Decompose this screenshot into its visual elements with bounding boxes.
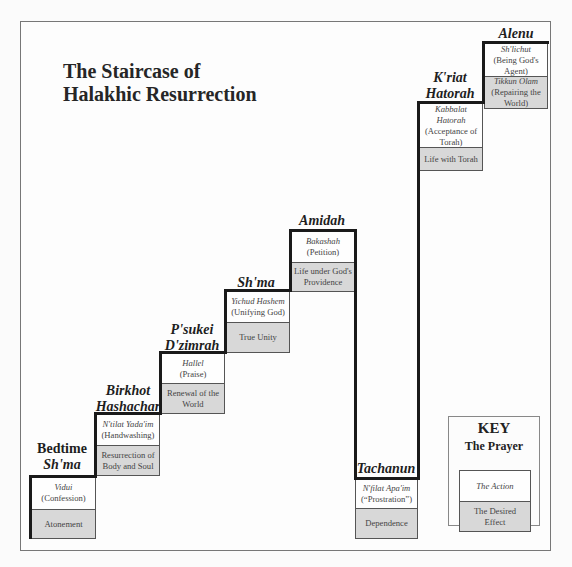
effect-text: Atonement [44,519,82,530]
action-name: Yichud Hashem [231,296,285,307]
prayer-name: Sh'ma [237,275,274,290]
step-kriat-hatorah-effect: Life with Torah [419,147,483,171]
key-prayer-label: The Prayer [449,439,539,453]
step-alenu-action: Sh'lichut(Being God's Agent) [484,43,548,76]
step-amidah-heading: Amidah [288,213,356,229]
step-kriat-hatorah-heading: K'riat Hatorah [416,70,484,102]
action-name: N'filat Apa'im [361,483,412,494]
diagram-title: The Staircase of Halakhic Resurrection [63,60,257,106]
prayer-name: P'sukei [171,322,214,337]
action-gloss: (Petition) [306,247,340,258]
step-bedtime-shma-heading: Bedtime Sh'ma [28,441,96,473]
step-shma-effect: True Unity [226,322,290,353]
effect-name: Tikkun Olam [487,76,545,87]
effect-text: Life with Torah [424,154,478,165]
action-name: Hallel [180,358,207,369]
step-amidah-effect: Life under God's Providence [291,262,355,292]
title-line-2: Halakhic Resurrection [63,83,257,106]
action-gloss: (Praise) [180,369,207,380]
step-shma-action: Yichud Hashem(Unifying God) [226,291,290,322]
step-alenu-effect: Tikkun Olam(Repairing the World) [484,76,548,109]
step-birkhot-hashachar-action: N'tilat Yada'im(Handwashing) [96,414,160,445]
action-gloss: (“Prostration”) [361,494,412,505]
step-tachanun-action: N'filat Apa'im(“Prostration”) [355,478,418,508]
prayer-name-italic: Hatorah [425,86,474,101]
effect-text: Renewal of the World [164,388,222,410]
action-name: Vidui [41,482,85,493]
key-effect-label: The Desired Effect [472,506,518,528]
key-title: KEY [449,420,539,437]
effect-text: Life under God's Providence [294,266,352,288]
step-tachanun-effect: Dependence [355,508,418,539]
action-name: Sh'lichut [487,44,545,55]
prayer-name: Amidah [299,213,345,228]
legend-key: KEY The Prayer The Action The Desired Ef… [448,416,540,526]
prayer-name: Bedtime [28,441,96,457]
step-birkhot-hashachar-heading: Birkhot Hashachar [94,383,162,415]
step-psukei-dzimrah-heading: P'sukei D'zimrah [158,322,226,354]
step-alenu-heading: Alenu [482,26,550,42]
step-amidah-action: Bakashah(Petition) [291,231,355,262]
prayer-name: Birkhot [106,383,150,398]
step-psukei-dzimrah-effect: Renewal of the World [161,383,225,414]
effect-text: True Unity [239,332,277,343]
prayer-name: K'riat [433,70,466,85]
action-gloss: (Being God's Agent) [487,55,545,77]
step-tachanun-heading: Tachanun [354,461,418,477]
key-action-swatch: The Action [459,470,531,501]
action-name: Bakashah [306,236,340,247]
prayer-name: Alenu [498,26,533,41]
action-name: Kabbalat Hatorah [422,104,480,126]
action-gloss: (Confession) [41,493,85,504]
effect-text: Resurrection of Body and Soul [99,450,157,472]
action-gloss: (Acceptance of Torah) [422,126,480,148]
action-gloss: (Unifying God) [231,307,285,318]
effect-text: Dependence [365,518,407,529]
step-bedtime-shma-effect: Atonement [31,509,96,539]
action-name: N'tilat Yada'im [102,419,155,430]
step-bedtime-shma-action: Vidui(Confession) [31,476,96,509]
key-action-label: The Action [476,481,513,492]
step-birkhot-hashachar-effect: Resurrection of Body and Soul [96,445,160,476]
effect-text: (Repairing the World) [487,87,545,109]
title-line-1: The Staircase of [63,60,257,83]
key-effect-swatch: The Desired Effect [459,501,531,532]
step-psukei-dzimrah-action: Hallel(Praise) [161,353,225,383]
action-gloss: (Handwashing) [102,430,155,441]
prayer-name: Tachanun [357,461,416,476]
prayer-name-italic: Sh'ma [43,457,80,472]
step-kriat-hatorah-action: Kabbalat Hatorah(Acceptance of Torah) [419,103,483,147]
